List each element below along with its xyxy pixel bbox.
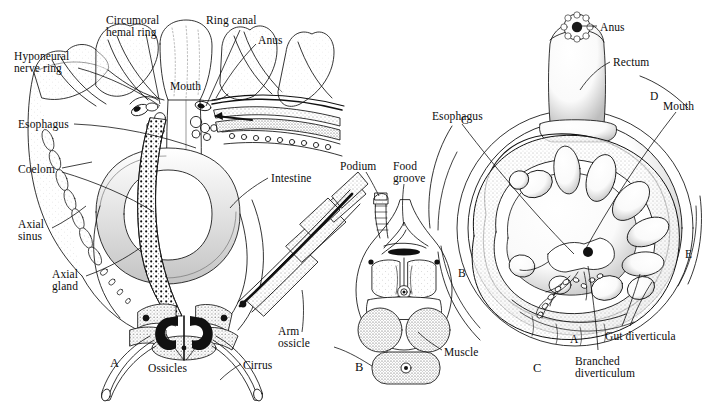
arm-letter-d: D — [650, 90, 658, 102]
esophagus-label: Esophagus — [18, 118, 69, 130]
panel-b-artwork — [356, 193, 452, 384]
branched-diverticulum-label: Branched diverticulum — [575, 355, 635, 380]
ossicles-label: Ossicles — [148, 362, 187, 374]
axial-gland-label: Axial gland — [52, 268, 78, 293]
anatomy-figure: Hyponeural nerve ringCircumoral hemal ri… — [0, 0, 708, 403]
intestine-label: Intestine — [271, 172, 312, 184]
arm-letter-b: B — [458, 267, 466, 279]
esophagus-c-label: Esophagus — [432, 110, 483, 122]
ring-canal-label: Ring canal — [206, 14, 257, 26]
muscle-label: Muscle — [444, 346, 478, 358]
anus-label: Anus — [258, 34, 283, 46]
panel-letter-c: C — [533, 361, 541, 376]
cirrus-label: Cirrus — [243, 359, 272, 371]
circumoral-hemal-ring-label: Circumoral hemal ring — [106, 14, 159, 39]
food-groove-label: Food groove — [393, 160, 426, 185]
axial-sinus-label: Axial sinus — [18, 218, 44, 243]
hyponeural-nerve-ring-label: Hyponeural nerve ring — [14, 50, 69, 75]
mouth-c-label: Mouth — [663, 100, 694, 112]
anus-c-label: Anus — [600, 21, 625, 33]
arm-letter-a: A — [570, 333, 578, 345]
podium-label: Podium — [340, 160, 376, 172]
arm-ossicle-label: Arm ossicle — [278, 325, 310, 350]
panel-letter-b: B — [355, 360, 363, 375]
mouth-label: Mouth — [170, 80, 201, 92]
panel-c-artwork — [429, 12, 702, 346]
arm-letter-c: C — [461, 114, 469, 126]
coelom-label: Coelom — [18, 163, 55, 175]
rectum-label: Rectum — [613, 56, 649, 68]
arm-letter-e: E — [685, 248, 692, 260]
figure-artwork — [0, 0, 708, 403]
panel-letter-a: A — [110, 356, 119, 371]
gut-diverticula-label: Gut diverticula — [605, 330, 676, 342]
panel-a-artwork — [28, 20, 368, 402]
